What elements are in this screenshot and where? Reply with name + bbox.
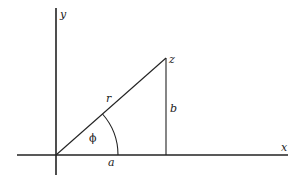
- point-z-label: z: [168, 53, 175, 66]
- radius-label: r: [106, 92, 112, 105]
- vertical-b-label: b: [170, 102, 177, 115]
- radius-line: [56, 58, 166, 155]
- coordinate-diagram: y x z r b a ϕ: [0, 0, 303, 179]
- x-axis-label: x: [281, 141, 288, 154]
- horizontal-a-label: a: [108, 156, 115, 169]
- diagram-canvas: y x z r b a ϕ: [0, 0, 303, 179]
- angle-phi-label: ϕ: [89, 132, 97, 145]
- angle-arc: [103, 114, 119, 155]
- y-axis-label: y: [59, 8, 67, 21]
